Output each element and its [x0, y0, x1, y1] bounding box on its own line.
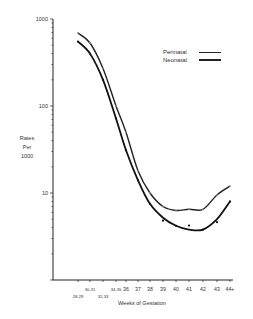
x-tick-label: 38	[147, 286, 153, 292]
legend: Perinatal Neonatal	[163, 48, 221, 64]
data-point	[137, 179, 139, 181]
data-point	[149, 192, 151, 194]
legend-swatch	[199, 59, 221, 61]
legend-item-neonatal: Neonatal	[163, 56, 221, 64]
data-point	[125, 131, 127, 133]
data-point	[175, 210, 177, 212]
x-tick-labels: 28-2930-3132-3334-35363738394041424344+	[73, 286, 235, 299]
legend-label: Neonatal	[163, 56, 195, 65]
x-tick-label: 37	[135, 286, 141, 292]
data-point	[229, 200, 231, 202]
x-tick-label: 32-33	[98, 294, 109, 299]
y-axis-label-line: Rates	[14, 134, 40, 143]
x-tick-label: 28-29	[73, 294, 84, 299]
x-tick-label: 36	[123, 286, 129, 292]
data-point	[202, 228, 204, 230]
x-tick-label: 30-31	[85, 287, 96, 292]
y-tick-label-100: 100	[39, 103, 48, 109]
neonatal-line	[78, 42, 230, 231]
y-tick-label-10: 10	[42, 190, 48, 196]
data-point	[202, 208, 204, 210]
y-axis-label-line: Per	[14, 143, 40, 152]
data-point	[162, 206, 164, 208]
data-point	[102, 68, 104, 70]
y-tick-label-1000: 1000	[36, 16, 48, 22]
x-tick-label: 34-35	[111, 287, 122, 292]
data-point	[216, 194, 218, 196]
data-point	[188, 224, 190, 226]
x-tick-label: 43	[214, 286, 220, 292]
y-axis-label: Rates Per 1000	[14, 134, 40, 161]
x-tick-label: 44+	[226, 286, 235, 292]
data-point	[125, 149, 127, 151]
data-point	[175, 225, 177, 227]
data-point	[77, 32, 79, 34]
x-tick-label: 42	[200, 286, 206, 292]
x-tick-label: 39	[160, 286, 166, 292]
data-point	[188, 208, 190, 210]
data-point	[137, 170, 139, 172]
data-point	[102, 79, 104, 81]
data-point	[162, 220, 164, 222]
data-point	[229, 185, 231, 187]
legend-swatch	[199, 52, 221, 53]
data-point	[115, 105, 117, 107]
data-point	[216, 221, 218, 223]
x-tick-label: 41	[186, 286, 192, 292]
y-axis-label-line: 1000	[14, 152, 40, 161]
x-axis-label: Weeks of Gestation	[118, 300, 166, 306]
data-point	[89, 53, 91, 55]
data-point	[89, 42, 91, 44]
data-point	[77, 40, 79, 42]
data-point	[115, 117, 117, 119]
x-tick-label: 40	[173, 286, 179, 292]
data-point	[149, 203, 151, 205]
